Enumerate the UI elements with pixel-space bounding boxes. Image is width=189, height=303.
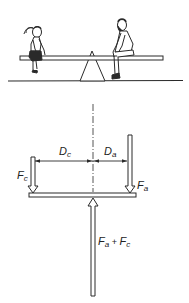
dim-arrowhead-right — [122, 159, 127, 162]
beam — [29, 193, 136, 197]
label-force-child: Fc — [17, 170, 28, 183]
dim-arrowhead-left — [35, 159, 40, 162]
dim-arrowhead-center-right — [94, 159, 99, 162]
label-distance-adult: Da — [104, 146, 116, 159]
adult-figure — [112, 19, 134, 79]
force-child-arrow — [28, 157, 38, 193]
label-reaction-force: Fa + Fc — [98, 236, 130, 249]
reaction-force-arrow — [88, 198, 98, 296]
seesaw-diagram — [0, 0, 189, 303]
child-figure — [24, 27, 45, 74]
free-body-diagram — [28, 104, 136, 296]
force-adult-arrow — [125, 135, 135, 193]
label-distance-child: Dc — [59, 146, 71, 159]
dim-arrowhead-center-left — [87, 159, 92, 162]
label-force-adult: Fa — [137, 180, 148, 193]
seesaw-scene — [8, 19, 183, 81]
